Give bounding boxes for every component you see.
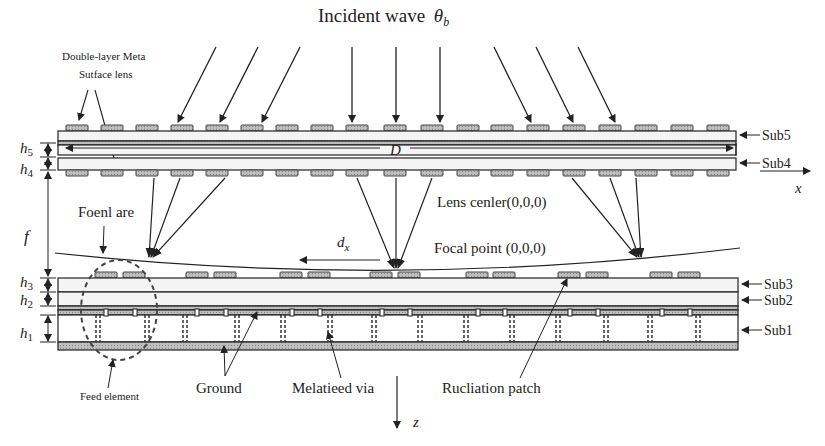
radiation-patch-label: Rucliation patch [442, 380, 541, 396]
svg-text:Sub3: Sub3 [764, 277, 793, 292]
svg-text:f: f [24, 227, 31, 246]
svg-text:z: z [412, 414, 419, 430]
svg-text:Sub2: Sub2 [764, 293, 793, 308]
metallized-via-label: Melatieed via [292, 380, 374, 396]
feed-substrates [58, 278, 738, 350]
z-axis: z [397, 376, 419, 430]
metasurface-pointer [79, 90, 88, 120]
svg-text:dx: dx [337, 234, 350, 253]
svg-text:Sub1: Sub1 [764, 323, 793, 338]
x-axis: x [760, 171, 810, 196]
height-dimensions [40, 143, 56, 342]
title-incident-wave: Incident wave θb [318, 5, 449, 29]
svg-text:h5: h5 [20, 140, 34, 158]
focal-point-label: Focal point (0,0,0) [434, 240, 546, 257]
focal-arc-pointer [103, 226, 104, 253]
feed-element-label: Feed element [80, 390, 139, 402]
dx-dimension: dx [300, 234, 380, 260]
svg-text:h3: h3 [20, 274, 34, 292]
metasurface-label-2: Sutface lens [79, 68, 132, 80]
focusing-rays [149, 178, 641, 268]
metasurface-label: Double-layer Meta [62, 50, 145, 62]
svg-text:x: x [794, 180, 802, 196]
lens-top-patches [66, 125, 729, 131]
svg-text:Sub5: Sub5 [762, 128, 791, 143]
radiation-patches [95, 272, 700, 278]
feed-element-pointer [108, 360, 113, 388]
svg-text:h4: h4 [20, 161, 34, 179]
feed-sub-labels: Sub3 Sub2 Sub1 [742, 277, 793, 338]
svg-text:h2: h2 [20, 292, 33, 310]
height-labels: h5 h4 f h3 h2 h1 [20, 140, 34, 343]
focal-arc-label: Foenl are [78, 204, 135, 220]
svg-text:D: D [389, 142, 401, 158]
incident-wave-arrows [178, 47, 615, 122]
lens-sub-labels: Sub5 Sub4 [740, 128, 791, 171]
svg-text:h1: h1 [20, 325, 33, 343]
antenna-diagram: Incident wave θb Double-layer Meta Sutfa… [0, 0, 825, 446]
lens-bottom-patches [66, 170, 729, 176]
ground-label: Ground [196, 380, 242, 396]
svg-text:Sub4: Sub4 [762, 156, 791, 171]
lens-center-label: Lens cenler(0,0,0) [437, 194, 547, 211]
